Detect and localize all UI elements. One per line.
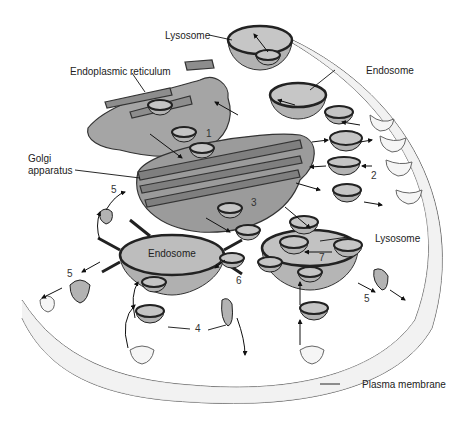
label-endosome-top: Endosome (366, 65, 414, 77)
step-number-7: 7 (319, 252, 325, 263)
step-number-3: 3 (251, 197, 257, 208)
label-golgi-line1: Golgi (28, 153, 51, 165)
step-number-5a: 5 (111, 184, 117, 195)
step-number-5b: 5 (67, 268, 73, 279)
label-lysosome-top: Lysosome (165, 30, 210, 42)
cell-diagram: Lysosome Endoplasmic reticulum Endosome … (0, 0, 465, 423)
lysosome-top (228, 26, 292, 70)
label-endosome-center: Endosome (148, 248, 196, 260)
endosome-top (270, 83, 326, 119)
step-number-4: 4 (195, 323, 201, 334)
step-number-1: 1 (206, 128, 212, 139)
step-number-6: 6 (236, 275, 242, 286)
diagram-artwork (0, 0, 465, 423)
step-number-2: 2 (371, 170, 377, 181)
label-endoplasmic-reticulum: Endoplasmic reticulum (70, 66, 171, 78)
label-plasma-membrane: Plasma membrane (362, 379, 446, 391)
label-lysosome-right: Lysosome (375, 233, 420, 245)
label-golgi-line2: apparatus (28, 165, 72, 177)
step-number-5c: 5 (364, 293, 370, 304)
